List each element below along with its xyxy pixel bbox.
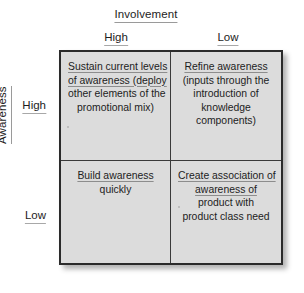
quadrant-text-line: introduction of (178, 87, 274, 101)
quadrant-high-awareness-low-involvement: Refine awareness(inputs through theintro… (171, 52, 281, 161)
quadrant-text: Sustain current levelsof awareness (depl… (68, 60, 163, 114)
quadrant-text: Build awarenessquickly (68, 169, 163, 196)
row-header-high: High (22, 99, 46, 114)
quadrant-text-line: Build awareness (68, 169, 163, 183)
y-axis-title: Awareness (0, 86, 12, 144)
x-axis-title-label: Involvement (114, 8, 177, 20)
scan-speck (178, 206, 180, 208)
y-axis-title-label: Awareness (0, 86, 8, 144)
quadrant-text-line: Create association of (178, 169, 274, 183)
quadrant-high-awareness-high-involvement: Sustain current levelsof awareness (depl… (61, 52, 171, 161)
row-header-low-label: Low (25, 209, 46, 221)
quadrant-text-line: (inputs through the (178, 74, 274, 88)
quadrant-text-line: product class need (178, 210, 274, 224)
x-axis-title-underline (114, 22, 177, 23)
quadrant-text: Create association ofawareness ofproduct… (178, 169, 274, 223)
quadrant-text-line: Refine awareness (178, 60, 274, 74)
row-header-low: Low (25, 209, 46, 224)
quadrant-text-line: of awareness (deploy (68, 74, 163, 88)
column-header-high: High (104, 31, 128, 46)
x-axis-title: Involvement (114, 8, 177, 23)
row-header-high-label: High (22, 99, 46, 111)
column-header-low: Low (217, 31, 238, 46)
y-axis-title-underline (11, 86, 12, 144)
quadrant-text-line: components) (178, 114, 274, 128)
quadrant-low-awareness-low-involvement: Create association ofawareness ofproduct… (171, 161, 281, 263)
column-header-low-label: Low (217, 31, 238, 43)
quadrant-text-line: product with (178, 196, 274, 210)
row-header-high-underline (22, 113, 46, 114)
row-header-low-underline (25, 223, 46, 224)
quadrant-low-awareness-high-involvement: Build awarenessquickly (61, 161, 171, 263)
quadrant-text-line: knowledge (178, 101, 274, 115)
column-header-low-underline (217, 45, 238, 46)
column-header-high-label: High (104, 31, 128, 43)
quadrant-text-line: awareness of (178, 183, 274, 197)
quadrant-text-line: quickly (68, 183, 163, 197)
awareness-involvement-matrix: Sustain current levelsof awareness (depl… (59, 50, 283, 265)
column-header-high-underline (104, 45, 128, 46)
quadrant-text-line: Sustain current levels (68, 60, 163, 74)
quadrant-text-line: other elements of the (68, 87, 163, 101)
scan-speck (67, 126, 69, 128)
quadrant-text-line: promotional mix) (68, 101, 163, 115)
quadrant-text: Refine awareness(inputs through theintro… (178, 60, 274, 128)
